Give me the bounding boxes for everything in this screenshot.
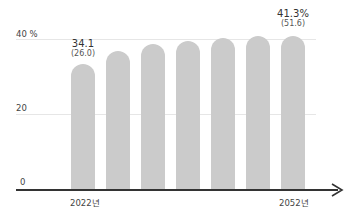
bar-1 [71, 64, 95, 190]
annotation-first: 34.1 (26.0) [63, 38, 103, 58]
y-tick-20: 20 [16, 103, 27, 113]
annotation-first-sub: (26.0) [63, 49, 103, 58]
y-tick-0: 0 [20, 177, 25, 187]
x-axis-line [16, 189, 338, 191]
annotation-last-value: 41.3% [271, 8, 315, 19]
bar-3 [141, 44, 165, 190]
y-tick-40: 40 % [16, 29, 38, 39]
gridline-40 [16, 39, 316, 40]
x-label-start: 2022년 [70, 196, 100, 208]
bar-5 [211, 38, 235, 190]
bar-2 [106, 51, 130, 190]
bar-4 [176, 41, 200, 190]
x-axis-arrow-icon [330, 183, 344, 197]
x-label-end: 2052년 [279, 196, 309, 208]
annotation-first-value: 34.1 [63, 38, 103, 49]
annotation-last-sub: (51.6) [271, 19, 315, 28]
annotation-last: 41.3% (51.6) [271, 8, 315, 28]
gridline-20 [16, 114, 316, 115]
bar-7 [281, 36, 305, 190]
bar-6 [246, 36, 270, 190]
